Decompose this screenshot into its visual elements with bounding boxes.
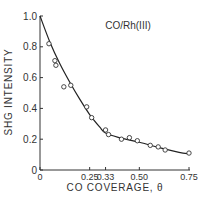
y-tick-label: 0.8 [23, 41, 37, 52]
chart-title: CO/Rh(III) [105, 20, 151, 31]
y-tick-label: 0.2 [23, 134, 37, 145]
y-axis: 00.20.40.60.81.0 [23, 11, 43, 176]
data-point-marker [156, 145, 160, 149]
x-tick-label: 0.75 [180, 172, 198, 182]
data-point-marker [187, 151, 191, 155]
x-axis-label: CO COVERAGE, θ [67, 182, 164, 193]
data-point-marker [127, 135, 131, 139]
data-point-marker [148, 143, 152, 147]
x-axis: 00.250.330.500.75 [37, 167, 197, 182]
data-point-marker [103, 128, 107, 132]
shg-chart: 00.20.40.60.81.0 00.250.330.500.75 SHG I… [0, 0, 204, 202]
data-point-marker [84, 105, 88, 109]
y-tick-label: 1.0 [23, 11, 37, 22]
data-point-marker [54, 63, 58, 67]
data-point-marker [119, 137, 123, 141]
data-points [47, 42, 191, 156]
x-tick-label: 0.33 [97, 172, 115, 182]
data-point-marker [47, 42, 51, 46]
y-tick-label: 0.4 [23, 103, 37, 114]
data-point-marker [89, 115, 93, 119]
x-tick-label: 0.50 [131, 172, 149, 182]
data-point-marker [53, 58, 57, 62]
y-tick-label: 0.6 [23, 72, 37, 83]
y-axis-label: SHG INTENSITY [3, 48, 14, 135]
data-point-marker [163, 148, 167, 152]
data-point-marker [62, 85, 66, 89]
data-point-marker [135, 139, 139, 143]
data-point-marker [106, 132, 110, 136]
x-tick-label: 0 [37, 172, 42, 182]
data-point-marker [69, 83, 73, 87]
